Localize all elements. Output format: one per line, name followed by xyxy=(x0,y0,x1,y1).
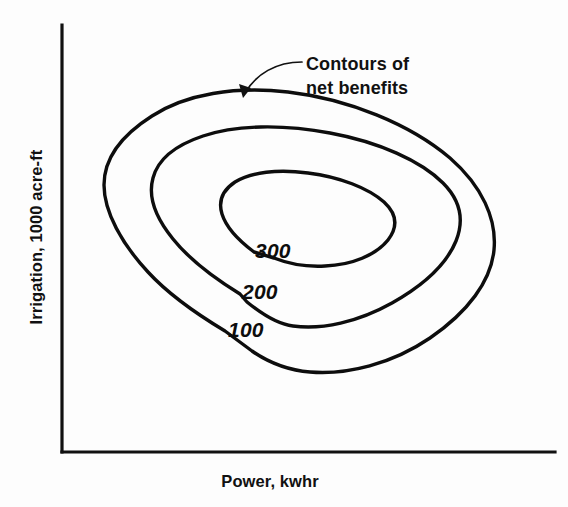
leader-line xyxy=(245,62,302,93)
plot-canvas: 300 200 100 Contours of net benefits Irr… xyxy=(0,0,568,507)
contour-figure: 300 200 100 Contours of net benefits Irr… xyxy=(0,0,568,507)
contour-level-300 xyxy=(221,171,395,266)
contour-path-200 xyxy=(151,127,460,327)
y-axis-label: Irrigation, 1000 acre-ft xyxy=(27,149,45,324)
contour-level-200 xyxy=(151,127,460,327)
contour-label-300: 300 xyxy=(255,239,291,262)
annotation-line-1: Contours of xyxy=(306,54,410,74)
contour-path-100 xyxy=(104,90,494,372)
x-axis-label: Power, kwhr xyxy=(221,472,319,490)
contour-path-300 xyxy=(221,171,395,266)
contour-level-100 xyxy=(104,90,494,372)
annotation-line-2: net benefits xyxy=(306,78,408,98)
contour-label-200: 200 xyxy=(241,280,278,303)
contour-label-100: 100 xyxy=(228,318,264,341)
